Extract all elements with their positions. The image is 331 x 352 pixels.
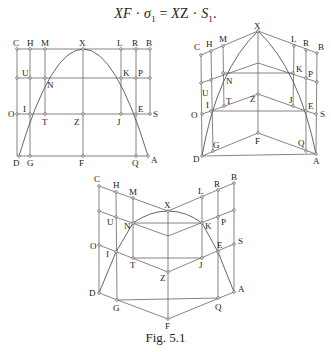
- label-l: L: [291, 34, 297, 44]
- label-c: C: [194, 42, 200, 52]
- label-m: M: [129, 187, 137, 197]
- label-h: H: [27, 38, 34, 48]
- label-e: E: [308, 101, 314, 111]
- label-g: G: [213, 140, 220, 150]
- label-d: D: [89, 288, 96, 298]
- diagram-folded-up: C H M X L R B U N K P O I T Z J E S D G …: [191, 21, 325, 166]
- label-f: F: [255, 136, 260, 146]
- label-q: Q: [215, 302, 222, 312]
- figure-caption: Fig. 5.1: [0, 330, 331, 346]
- label-g: G: [27, 158, 34, 168]
- label-u: U: [107, 217, 114, 227]
- label-j: J: [199, 260, 203, 270]
- label-m: M: [41, 38, 49, 48]
- label-n: N: [226, 76, 233, 86]
- label-x: X: [164, 200, 171, 210]
- label-d: D: [193, 154, 200, 164]
- label-r: R: [214, 179, 220, 189]
- label-s: S: [153, 109, 158, 119]
- label-z: Z: [250, 94, 256, 104]
- label-i: I: [106, 249, 109, 259]
- label-e: E: [138, 104, 144, 114]
- label-q: Q: [132, 158, 139, 168]
- label-t: T: [226, 96, 232, 106]
- label-k: K: [123, 68, 130, 78]
- label-a: A: [238, 284, 245, 294]
- label-i: I: [206, 100, 209, 110]
- label-k: K: [205, 221, 212, 231]
- label-b: B: [231, 172, 237, 182]
- label-g: G: [113, 303, 120, 313]
- label-h: H: [206, 39, 213, 49]
- label-p: P: [138, 68, 143, 78]
- label-d: D: [13, 158, 20, 168]
- label-p: P: [221, 217, 226, 227]
- label-p: P: [308, 69, 313, 79]
- label-a: A: [151, 155, 158, 165]
- label-u: U: [202, 88, 209, 98]
- label-x: X: [79, 38, 86, 48]
- label-z: Z: [74, 117, 80, 127]
- label-o: O: [191, 110, 198, 120]
- label-t: T: [42, 117, 48, 127]
- label-n: N: [124, 221, 131, 231]
- label-m: M: [219, 34, 227, 44]
- label-j: J: [289, 95, 293, 105]
- label-u: U: [22, 68, 29, 78]
- label-j: J: [117, 117, 121, 127]
- label-x: X: [254, 21, 261, 31]
- label-l: L: [198, 186, 204, 196]
- label-z: Z: [160, 273, 166, 283]
- label-n: N: [47, 80, 54, 90]
- label-l: L: [117, 38, 123, 48]
- diagram-flat: C H M X L R B U N K P O I T Z J E S D G …: [8, 38, 158, 168]
- label-c: C: [13, 38, 19, 48]
- label-h: H: [113, 180, 120, 190]
- label-i: I: [23, 104, 26, 114]
- label-b: B: [318, 42, 324, 52]
- label-r: R: [303, 38, 309, 48]
- diagram-folded-down: C H M X L R B U N K P O I T Z J E S D G …: [89, 172, 245, 331]
- label-o: O: [90, 241, 97, 251]
- label-s: S: [238, 236, 243, 246]
- label-t: T: [130, 260, 136, 270]
- label-f: F: [79, 158, 84, 168]
- label-q: Q: [298, 138, 305, 148]
- label-k: K: [296, 64, 303, 74]
- figure-5-1: C H M X L R B U N K P O I T Z J E S D G …: [0, 0, 331, 352]
- label-e: E: [217, 240, 223, 250]
- label-o: O: [8, 109, 15, 119]
- label-s: S: [320, 109, 325, 119]
- label-b: B: [146, 38, 152, 48]
- label-r: R: [132, 38, 138, 48]
- label-c: C: [94, 174, 100, 184]
- label-a: A: [313, 156, 320, 166]
